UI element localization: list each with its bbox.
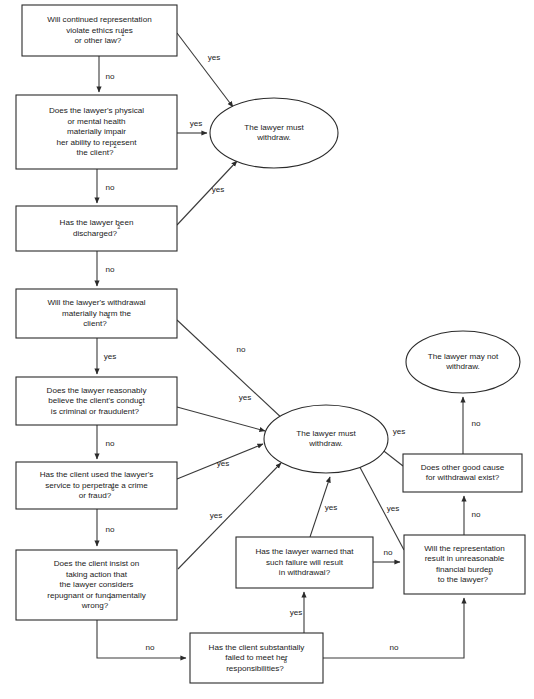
- node-text-line: Does the lawyer's physical: [49, 106, 144, 115]
- node-text-line: Will continued representation: [47, 15, 151, 24]
- node-must1[interactable]: The lawyer mustwithdraw.: [210, 98, 338, 168]
- node-text-line: Has the lawyer been: [60, 218, 134, 227]
- node-maynot[interactable]: The lawyer may notwithdraw.: [406, 331, 520, 393]
- edge-label-e-q7-no: no: [145, 643, 155, 652]
- node-text-line: The lawyer may not: [428, 352, 499, 361]
- node-text-line: Does other good cause: [421, 463, 505, 472]
- edge-label-e-q6-yes: yes: [217, 459, 230, 468]
- edge-e-q7-no: [97, 620, 186, 658]
- node-q6[interactable]: Has the client used the lawyer'sservice …: [16, 462, 177, 509]
- node-text-line: materially impair: [67, 127, 126, 136]
- node-text-line: result in unreasonable: [425, 554, 505, 563]
- footnote-marker: 6: [111, 486, 114, 492]
- edge-label-e-q11-no: no: [471, 419, 481, 428]
- footnote-marker: 4: [107, 314, 110, 320]
- node-text-line: or mental health: [67, 117, 125, 126]
- node-text-line: The lawyer must: [244, 123, 304, 132]
- footnote-marker: 3: [117, 224, 120, 230]
- edge-e-q4-no: [177, 320, 285, 421]
- edge-e-q5-yes: [177, 407, 265, 431]
- flowchart-svg: Will continued representationviolate eth…: [0, 0, 534, 699]
- node-text-line: repugnant or fundamentally: [47, 591, 146, 600]
- edge-label-e-q3-yes: yes: [212, 185, 225, 194]
- node-text-line: Has the client substantially: [209, 643, 306, 652]
- footnote-marker: 2: [113, 143, 116, 149]
- node-text-line: the lawyer considers: [60, 580, 134, 589]
- node-text-line: Will the representation: [424, 544, 505, 553]
- edge-label-e-q1-no: no: [105, 72, 115, 81]
- node-text-line: service to perpetrate a crime: [45, 481, 148, 490]
- nodes-layer: Will continued representationviolate eth…: [16, 5, 525, 683]
- edge-label-e-q7-yes: yes: [210, 511, 223, 520]
- footnote-marker: 9: [488, 571, 491, 577]
- flowchart-canvas: Will continued representationviolate eth…: [0, 0, 534, 699]
- edge-label-e-q9-yes: yes: [325, 503, 338, 512]
- node-q10[interactable]: Will the representationresult in unreaso…: [404, 535, 525, 594]
- node-q8[interactable]: Has the client substantiallyfailed to me…: [190, 633, 323, 683]
- edge-label-e-q3-no: no: [105, 265, 115, 274]
- node-q9[interactable]: Has the lawyer warned thatsuch failure w…: [236, 537, 373, 588]
- edge-label-e-q6-no: no: [105, 525, 115, 534]
- node-q4[interactable]: Will the lawyer's withdrawalmaterially h…: [16, 289, 177, 338]
- node-text-line: Does the lawyer reasonably: [47, 386, 148, 395]
- node-text-line: her ability to represent: [56, 138, 137, 147]
- node-q5[interactable]: Does the lawyer reasonablybelieve the cl…: [16, 377, 177, 425]
- node-text-line: withdraw.: [256, 133, 291, 142]
- node-text-line: Has the client used the lawyer's: [40, 470, 154, 479]
- edge-label-e-q4-yes: yes: [104, 352, 117, 361]
- edge-label-e-q9-no: no: [383, 548, 393, 557]
- edge-label-e-q8-no: no: [389, 643, 399, 652]
- node-text-line: Will the lawyer's withdrawal: [47, 298, 145, 307]
- node-text-line: believe the client's conduct: [48, 396, 145, 405]
- node-text-line: withdraw.: [308, 439, 343, 448]
- footnote-marker: 7: [108, 596, 111, 602]
- node-text-line: taking action that: [66, 570, 128, 579]
- node-q3[interactable]: Has the lawyer beendischarged?3: [16, 206, 177, 251]
- node-q1[interactable]: Will continued representationviolate eth…: [22, 5, 177, 56]
- footnote-marker: 8: [284, 659, 287, 665]
- edge-label-e-q1-yes: yes: [208, 53, 221, 62]
- edge-e-q1-yes: [177, 33, 233, 107]
- node-must2[interactable]: The lawyer mustwithdraw.: [264, 405, 388, 473]
- node-text-line: materially harm the: [62, 309, 131, 318]
- footnote-marker: 5: [139, 402, 142, 408]
- edge-label-e-q5-yes: yes: [239, 393, 252, 402]
- node-q2[interactable]: Does the lawyer's physicalor mental heal…: [16, 95, 177, 169]
- node-text-line: withdraw.: [445, 362, 480, 371]
- node-q7[interactable]: Does the client insist ontaking action t…: [16, 550, 177, 620]
- edge-label-e-q11-yes: yes: [393, 427, 406, 436]
- node-text-line: Does the client insist on: [54, 559, 139, 568]
- edge-label-e-q2-yes: yes: [190, 119, 203, 128]
- node-text-line: failed to meet her: [225, 653, 288, 662]
- node-text-line: financial burden: [436, 565, 493, 574]
- node-text-line: in withdrawal?: [279, 568, 331, 577]
- edge-label-e-q10-yes: yes: [387, 504, 400, 513]
- edge-label-e-q4-no: no: [236, 345, 246, 354]
- node-text-line: The lawyer must: [296, 429, 356, 438]
- edge-e-q3-yes: [177, 161, 237, 225]
- node-text-line: for withdrawal exist?: [426, 473, 500, 482]
- node-text-line: such failure will result: [266, 558, 344, 567]
- node-q11[interactable]: Does other good causefor withdrawal exis…: [403, 454, 522, 492]
- node-text-line: Has the lawyer warned that: [255, 547, 354, 556]
- edge-label-e-q10-no: no: [471, 510, 481, 519]
- footnote-marker: 1: [121, 31, 124, 37]
- edge-label-e-q2-no: no: [105, 183, 115, 192]
- edge-label-e-q8-yes: yes: [290, 608, 303, 617]
- edge-label-e-q5-no: no: [105, 439, 115, 448]
